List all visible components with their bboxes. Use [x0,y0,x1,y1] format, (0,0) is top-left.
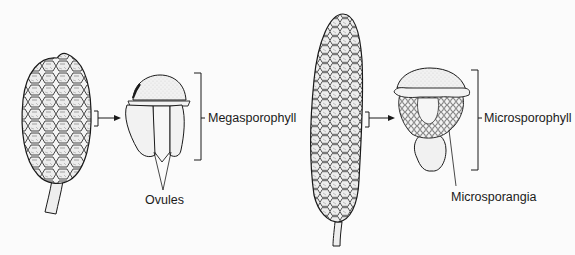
microsporangia-leader-line [449,130,456,186]
ovulate-cone [22,53,91,214]
pollen-cone [311,14,363,246]
microsporophyll-label: Microsporophyll [484,112,572,125]
microsporophyll-drawing [394,68,470,171]
ovulate-cone-bracket-arrow [94,111,121,126]
cycad-cones-diagram: Megasporophyll Ovules Microsporophyll Mi… [0,0,575,255]
microsporophyll-bracket [471,70,482,170]
diagram-artwork [0,0,575,255]
pollen-cone-bracket-arrow [365,112,395,127]
megasporophyll-bracket [194,73,205,160]
ovules-label: Ovules [145,194,184,207]
megasporophyll-drawing [126,75,190,162]
megasporophyll-label: Megasporophyll [208,112,296,125]
microsporangia-label: Microsporangia [451,191,536,204]
